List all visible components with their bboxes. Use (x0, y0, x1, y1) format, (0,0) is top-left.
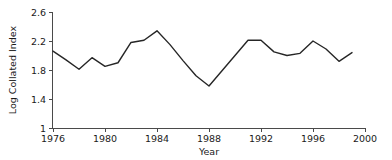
y-tick-label: 2.2 (31, 36, 46, 47)
x-tick-label: 1976 (41, 133, 65, 144)
x-axis-tick-labels: 1976198019841988199219962000 (41, 133, 377, 144)
data-line-log-collated-index (53, 31, 352, 86)
y-axis-title: Log Collated Index (7, 25, 18, 114)
y-tick-label: 1.8 (31, 65, 46, 76)
x-tick-label: 1992 (249, 133, 273, 144)
y-axis: 11.41.82.22.6 Log Collated Index (7, 7, 53, 134)
line-chart: 11.41.82.22.6 Log Collated Index 1976198… (0, 0, 392, 160)
x-tick-label: 1984 (145, 133, 169, 144)
chart-figure: 11.41.82.22.6 Log Collated Index 1976198… (0, 0, 392, 160)
y-tick-label: 1.4 (31, 94, 46, 105)
x-tick-label: 2000 (353, 133, 377, 144)
x-axis-title: Year (198, 146, 219, 157)
x-tick-label: 1996 (301, 133, 325, 144)
y-tick-label: 1 (40, 123, 46, 134)
x-tick-label: 1988 (197, 133, 221, 144)
y-axis-tick-labels: 11.41.82.22.6 (31, 7, 46, 134)
x-tick-label: 1980 (93, 133, 117, 144)
data-series-group (53, 31, 352, 86)
y-tick-label: 2.6 (31, 7, 46, 18)
x-axis: 1976198019841988199219962000 Year (41, 128, 377, 157)
